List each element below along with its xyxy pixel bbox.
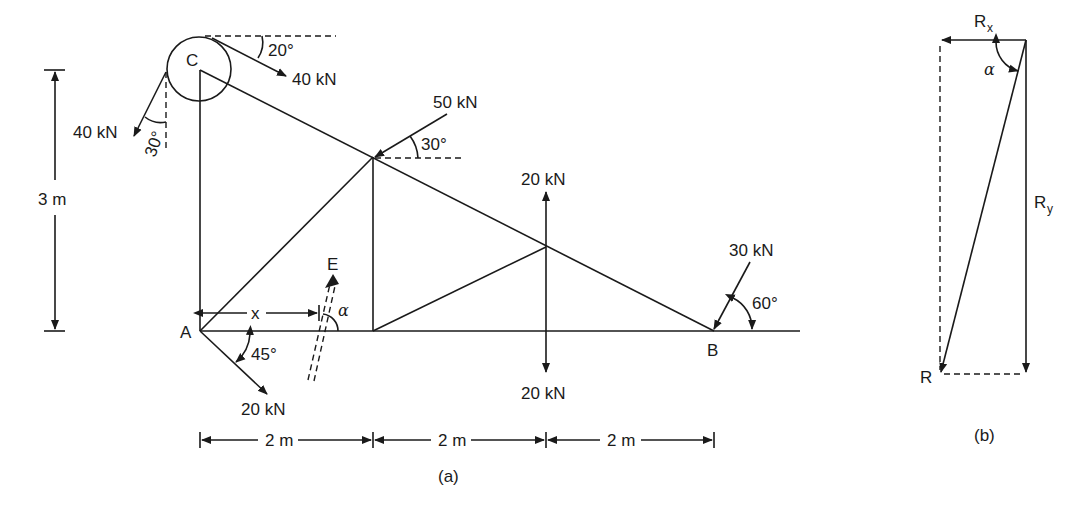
label-a: A: [180, 323, 192, 342]
angle-label-30-joint: 30°: [421, 135, 447, 154]
angle-arc-30-left: [145, 117, 166, 123]
force-label-20kn-up: 20 kN: [521, 170, 565, 189]
resultant-line-left: [308, 284, 330, 380]
angle-label-alpha: α: [338, 301, 349, 320]
force-arrow-40kn-left: [134, 72, 166, 136]
angle-arc-45: [236, 334, 250, 362]
rx-subscript: x: [987, 21, 993, 35]
force-label-20kn-down: 20 kN: [521, 384, 565, 403]
member-lower-diagonal: [373, 247, 546, 331]
span2-label: 2 m: [438, 431, 466, 450]
angle-label-alpha-b: α: [984, 60, 995, 79]
angle-arc-alpha-b: [996, 42, 1018, 71]
figure-b: α R x R y R (b): [920, 12, 1053, 445]
force-arrow-30kn: [714, 262, 750, 329]
force-label-40kn-right: 40 kN: [292, 70, 336, 89]
r-label: R: [920, 368, 932, 387]
pulley-c: [167, 37, 231, 101]
dim-height-label: 3 m: [38, 190, 66, 209]
resultant-arrowhead-icon: [325, 274, 339, 288]
height-dimension: 3 m: [38, 70, 66, 331]
angle-label-20: 20°: [268, 41, 294, 60]
force-label-40kn-left: 40 kN: [73, 123, 117, 142]
angle-arc-30-joint: [410, 136, 418, 158]
resultant-line-e: [308, 274, 339, 381]
angle-label-30-left: 30°: [141, 129, 168, 160]
dim-x-label: x: [251, 304, 260, 323]
angle-label-60: 60°: [752, 294, 778, 313]
span-dimensions: 2 m 2 m 2 m: [200, 431, 714, 450]
label-b: B: [707, 341, 718, 360]
angle-arc-60: [733, 298, 752, 329]
force-label-30kn: 30 kN: [729, 241, 773, 260]
ry-label: R: [1034, 193, 1046, 212]
force-diagram: C 20° 40 kN 30° 40 kN 30° 50 kN 20 kN 20…: [0, 0, 1089, 513]
caption-a: (a): [438, 467, 459, 486]
resultant-line-right: [314, 286, 335, 381]
ry-subscript: y: [1047, 202, 1053, 216]
span1-label: 2 m: [265, 431, 293, 450]
force-label-50kn: 50 kN: [433, 93, 477, 112]
label-c: C: [186, 51, 198, 70]
r-arrow: [941, 40, 1026, 372]
truss-structure: [200, 70, 800, 331]
rx-label: R: [974, 12, 986, 31]
angle-arc-20: [258, 36, 263, 58]
force-label-20kn-a: 20 kN: [241, 400, 285, 419]
caption-b: (b): [974, 426, 995, 445]
figure-a: C 20° 40 kN 30° 40 kN 30° 50 kN 20 kN 20…: [38, 36, 800, 486]
span3-label: 2 m: [607, 431, 635, 450]
label-e: E: [327, 255, 338, 274]
angle-label-45: 45°: [251, 345, 277, 364]
